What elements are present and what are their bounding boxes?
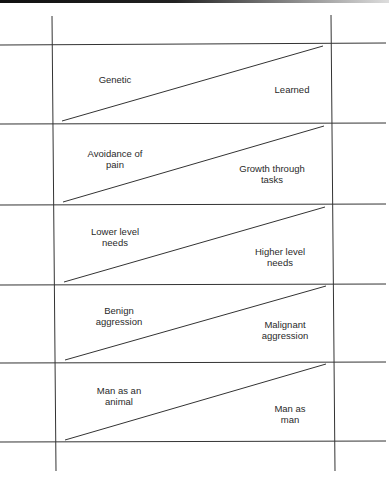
left-border	[52, 16, 56, 471]
row-divider	[0, 204, 386, 205]
row-divider	[0, 43, 386, 45]
row-divider	[0, 284, 386, 285]
row-divider	[0, 123, 386, 124]
row-4-left-label: Benign aggression	[84, 305, 154, 327]
right-border	[331, 15, 335, 471]
row-2-left-label: Avoidance of pain	[80, 148, 150, 170]
row-4-right-label: Malignant aggression	[250, 319, 320, 341]
row-divider	[0, 362, 386, 363]
row-2-right-label: Growth through tasks	[230, 163, 314, 185]
row-3-left-label: Lower level needs	[80, 226, 150, 248]
row-5-left-label: Man as an animal	[84, 385, 154, 407]
row-1-left-label: Genetic	[85, 74, 145, 85]
diagram-grid	[0, 0, 389, 477]
row-divider	[0, 441, 386, 442]
row-5-right-label: Man as man	[260, 403, 320, 425]
row-1-right-label: Learned	[262, 84, 322, 95]
row-3-right-label: Higher level needs	[245, 246, 315, 268]
